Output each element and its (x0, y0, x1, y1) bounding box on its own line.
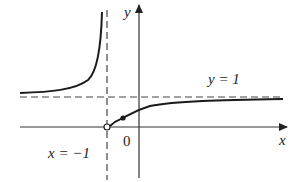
horizontal-asymptote-label: y = 1 (206, 71, 240, 87)
function-graph: y x 0 y = 1 x = −1 (0, 0, 294, 182)
right-branch-curve (110, 99, 283, 126)
filled-point (120, 115, 125, 120)
vertical-asymptote-label: x = −1 (47, 145, 90, 161)
left-branch-curve (20, 12, 102, 93)
x-axis-label: x (278, 132, 286, 148)
y-axis-label: y (122, 4, 131, 20)
origin-label: 0 (123, 133, 131, 149)
open-circle-point (104, 124, 110, 130)
